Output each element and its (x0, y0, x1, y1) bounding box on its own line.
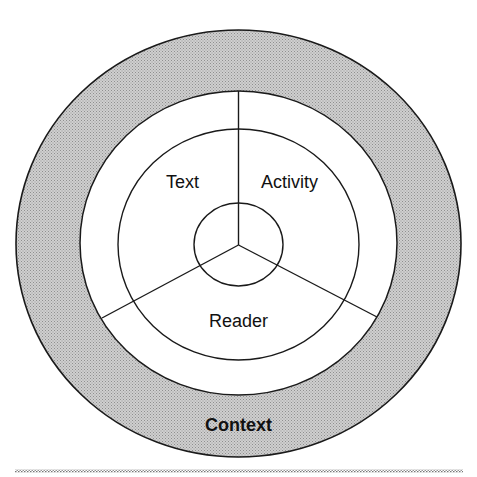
label-reader: Reader (209, 311, 268, 331)
bottom-rule (15, 470, 463, 473)
label-activity: Activity (261, 172, 318, 192)
reading-model-diagram: Text Activity Reader Context (0, 0, 477, 477)
label-text: Text (166, 172, 199, 192)
label-context: Context (205, 415, 272, 435)
